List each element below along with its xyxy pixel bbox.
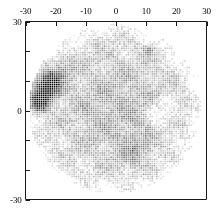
plot-canvas [0, 0, 218, 213]
x-tick-label: -20 [50, 7, 61, 16]
x-tick-label: 0 [114, 7, 118, 16]
x-tick-label: -30 [20, 7, 31, 16]
y-tick-label: 30 [13, 17, 22, 26]
x-tick-label: 10 [142, 7, 151, 16]
x-tick-label: -10 [80, 7, 91, 16]
y-tick-label: -30 [10, 195, 21, 204]
x-tick-label: 20 [172, 7, 181, 16]
scatter-density-figure: -30-20-100102030 300-30 [0, 0, 218, 213]
y-tick-label: 0 [17, 106, 21, 115]
x-tick-label: 30 [202, 7, 211, 16]
